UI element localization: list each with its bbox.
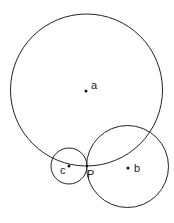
circle-diagram: a b c P <box>0 0 174 223</box>
center-dot-a <box>85 90 88 93</box>
point-p-dot <box>86 165 88 167</box>
circle-b <box>87 126 169 208</box>
label-a: a <box>91 79 98 91</box>
center-dot-b <box>127 167 130 170</box>
center-dot-c <box>68 165 71 168</box>
label-p: P <box>87 168 94 180</box>
label-b: b <box>134 162 140 174</box>
label-c: c <box>60 164 66 176</box>
